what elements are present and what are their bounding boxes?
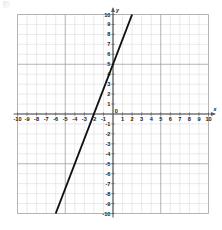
- origin-label: 0: [115, 108, 118, 114]
- y-tick-label: 9: [107, 21, 110, 27]
- y-tick-label: 7: [107, 41, 110, 47]
- axis-arrowheads: [111, 7, 216, 116]
- y-tick-label: 3: [107, 81, 110, 87]
- x-tick-label: 9: [197, 116, 200, 122]
- y-tick-label: -2: [105, 131, 110, 137]
- x-tick-label: 1: [121, 116, 124, 122]
- x-tick-label: -10: [13, 116, 21, 122]
- y-tick-label: -5: [105, 161, 110, 167]
- x-tick-label: 10: [205, 116, 211, 122]
- x-axis-name: x: [213, 106, 218, 112]
- y-tick-label: -8: [105, 191, 110, 197]
- y-axis-arrowhead: [111, 7, 115, 12]
- x-tick-label: 5: [159, 116, 162, 122]
- x-tick-label: -4: [72, 116, 78, 122]
- axis-name-labels: xy: [115, 7, 218, 112]
- x-tick-label: 6: [169, 116, 172, 122]
- corner-artifact: [3, 1, 10, 8]
- y-tick-label: -6: [105, 171, 110, 177]
- x-tick-label: 4: [150, 116, 154, 122]
- x-tick-label: 7: [178, 116, 181, 122]
- x-tick-label: -9: [25, 116, 30, 122]
- x-tick-label: 8: [188, 116, 191, 122]
- y-tick-label: 5: [107, 61, 110, 67]
- y-tick-label: 8: [107, 31, 110, 37]
- x-tick-label: 2: [131, 116, 134, 122]
- cartesian-plane-svg: -10-9-8-7-6-5-4-3-2-1123456789100 -10-9-…: [0, 0, 222, 230]
- y-tick-label: -3: [105, 141, 110, 147]
- y-tick-label: -1: [105, 121, 110, 127]
- y-tick-label: -10: [102, 211, 110, 217]
- x-tick-label: -5: [63, 116, 68, 122]
- coordinate-graph: -10-9-8-7-6-5-4-3-2-1123456789100 -10-9-…: [0, 0, 222, 230]
- y-tick-label: 6: [107, 51, 110, 57]
- x-tick-label: -8: [34, 116, 39, 122]
- y-tick-label: -7: [105, 181, 110, 187]
- x-tick-label: -7: [44, 116, 49, 122]
- x-tick-label: -3: [82, 116, 87, 122]
- x-tick-label: -6: [53, 116, 58, 122]
- y-tick-label: -4: [105, 151, 111, 157]
- y-tick-label: -9: [105, 201, 110, 207]
- x-tick-label: 3: [140, 116, 143, 122]
- y-tick-label: 10: [104, 12, 110, 18]
- x-axis-arrowhead: [211, 112, 216, 116]
- y-tick-label: 2: [107, 91, 110, 97]
- y-tick-label: 1: [107, 101, 110, 107]
- y-axis-name: y: [115, 7, 120, 13]
